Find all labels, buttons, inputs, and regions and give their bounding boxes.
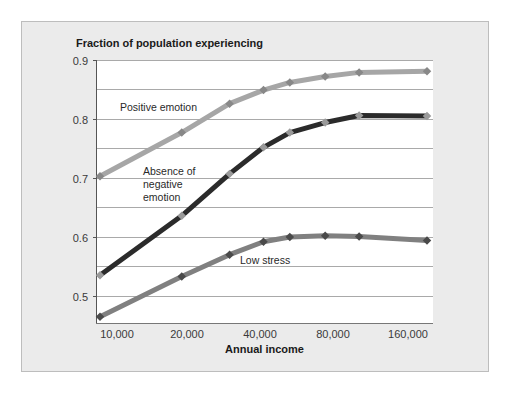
line-chart: 0.9 0.8 0.7 0.6 0.5 10,000 20,000 40,000…	[0, 0, 510, 393]
x-tick-label: 20,000	[170, 328, 204, 340]
x-tick-label: 10,000	[100, 328, 134, 340]
x-tick-label: 160,000	[388, 328, 428, 340]
annotation-positive-emotion: Positive emotion	[120, 101, 197, 113]
annotation-low-stress: Low stress	[240, 254, 290, 266]
y-tick-label: 0.8	[73, 114, 88, 126]
y-tick-label: 0.6	[73, 232, 88, 244]
y-tick-label: 0.9	[73, 55, 88, 67]
annotation-absence-negative-2: negative	[143, 178, 183, 190]
x-tick-label: 40,000	[243, 328, 277, 340]
y-axis-ticks	[93, 61, 96, 297]
annotation-absence-negative-1: Absence of	[143, 165, 196, 177]
y-tick-label: 0.5	[73, 291, 88, 303]
x-axis-title: Annual income	[96, 343, 433, 355]
y-tick-label: 0.7	[73, 173, 88, 185]
annotation-absence-negative-3: emotion	[143, 191, 181, 203]
x-tick-label: 80,000	[316, 328, 350, 340]
